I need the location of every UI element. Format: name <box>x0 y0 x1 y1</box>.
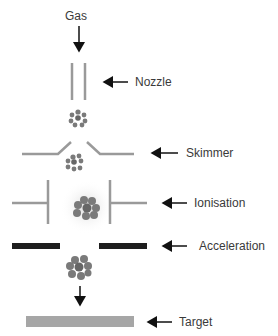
acceleration-plates-icon <box>12 243 147 249</box>
cluster-large-icon <box>66 255 92 280</box>
ionisation-label: Ionisation <box>194 196 245 210</box>
cluster-small-icon <box>66 154 84 172</box>
nozzle-label: Nozzle <box>135 75 172 89</box>
skimmer-icon <box>22 142 134 154</box>
skimmer-label: Skimmer <box>186 146 233 160</box>
target-plate-icon <box>26 316 134 327</box>
nozzle-icon <box>72 63 85 100</box>
cluster-beam-diagram <box>0 0 278 336</box>
target-label: Target <box>179 315 212 329</box>
acceleration-label: Acceleration <box>199 239 265 253</box>
cluster-small-icon <box>69 109 88 127</box>
gas-label: Gas <box>65 9 87 23</box>
